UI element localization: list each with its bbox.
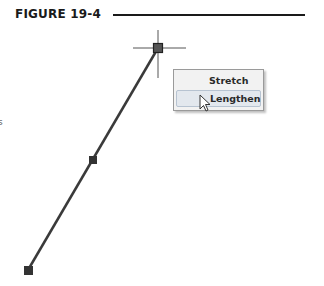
grip-context-menu: Stretch Lengthen	[173, 69, 264, 111]
grip-endpoint-bottom[interactable]	[24, 266, 33, 275]
arrow-pointer-icon	[199, 94, 213, 114]
menu-item-lengthen[interactable]: Lengthen	[176, 90, 261, 107]
drawing-canvas[interactable]	[0, 0, 324, 286]
grip-midpoint[interactable]	[89, 156, 97, 164]
grip-endpoint-top[interactable]	[154, 44, 163, 53]
menu-item-stretch[interactable]: Stretch	[176, 72, 261, 89]
